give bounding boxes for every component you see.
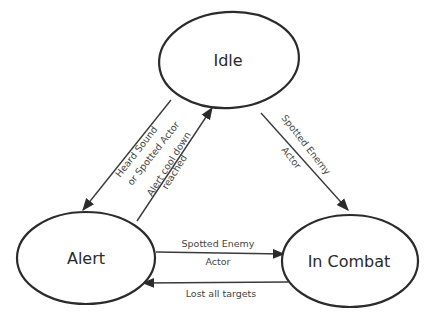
state-alert-label: Alert <box>67 249 105 268</box>
transition-combat-to-alert: Lost all targets <box>143 282 288 299</box>
state-diagram: Heard Sound or Spotted Actor Alert cool … <box>0 0 434 316</box>
state-combat-label: In Combat <box>308 252 391 271</box>
arrow-combat-to-alert <box>143 282 288 283</box>
edge-label-alert-combat-2: Actor <box>206 256 231 267</box>
state-alert: Alert <box>17 212 155 304</box>
transition-alert-to-combat: Spotted Enemy Actor <box>156 238 284 267</box>
state-idle: Idle <box>156 7 302 113</box>
edge-label-combat-alert: Lost all targets <box>186 288 257 299</box>
arrow-alert-to-combat <box>156 252 284 254</box>
transition-idle-to-combat: Spotted Enemy Actor <box>261 112 348 210</box>
arrow-idle-to-combat <box>261 113 348 210</box>
edge-label-alert-combat-1: Spotted Enemy <box>182 238 255 249</box>
state-combat: In Combat <box>282 215 418 307</box>
state-idle-label: Idle <box>213 51 242 70</box>
edge-label-idle-combat-2: Actor <box>279 144 303 171</box>
